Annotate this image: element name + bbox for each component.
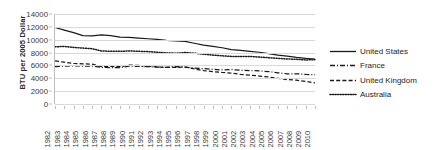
- x-axis-tick-mark: [83, 106, 84, 109]
- x-axis-tick-label: 1990: [119, 131, 127, 148]
- x-axis-tick-label: 2008: [286, 131, 294, 148]
- x-axis-tick-mark: [259, 106, 260, 109]
- gridline: [55, 14, 315, 15]
- legend-label: United Kingdom: [360, 76, 417, 85]
- x-axis-tick-mark: [129, 106, 130, 109]
- legend-swatch-solid-icon: [330, 47, 356, 56]
- gridline: [55, 78, 315, 79]
- y-axis-tick-mark: [49, 14, 52, 15]
- x-axis-tick-label: 2004: [249, 131, 257, 148]
- x-axis-tick-mark: [250, 106, 251, 109]
- x-axis-tick-label: 1983: [54, 131, 62, 148]
- x-axis-tick-label: 1999: [203, 131, 211, 148]
- legend-item-united-kingdom[interactable]: United Kingdom: [330, 73, 446, 88]
- x-axis-tick-mark: [194, 106, 195, 109]
- x-axis-tick-label: 2002: [231, 131, 239, 148]
- x-axis-tick-mark: [176, 106, 177, 109]
- gridline: [55, 27, 315, 28]
- x-axis-tick-label: 1995: [166, 131, 174, 148]
- gridline: [55, 53, 315, 54]
- legend-swatch-dashed-icon: [330, 76, 356, 85]
- x-axis-tick-labels: 1982198319841985198619871988198919901991…: [55, 106, 315, 148]
- x-axis-tick-mark: [185, 106, 186, 109]
- x-axis-tick-mark: [55, 106, 56, 109]
- x-axis-tick-mark: [111, 106, 112, 109]
- x-axis-tick-label: 1986: [82, 131, 90, 148]
- x-axis-tick-label: 1982: [45, 131, 53, 148]
- plot-area: [55, 14, 315, 104]
- legend-label: Australia: [360, 90, 391, 99]
- y-axis-tick-label: 4000: [31, 74, 48, 83]
- x-axis-tick-label: 1987: [91, 131, 99, 148]
- x-axis-tick-label: 2003: [240, 131, 248, 148]
- x-axis-tick-label: 1998: [193, 131, 201, 148]
- y-axis-tick-mark: [49, 52, 52, 53]
- x-axis-tick-label: 2007: [277, 131, 285, 148]
- x-axis-tick-label: 2006: [268, 131, 276, 148]
- x-axis-tick-mark: [269, 106, 270, 109]
- x-axis-tick-label: 1997: [184, 131, 192, 148]
- y-axis-tick-mark: [49, 26, 52, 27]
- legend-item-united-states[interactable]: United States: [330, 44, 446, 59]
- legend-item-australia[interactable]: Australia: [330, 88, 446, 103]
- y-axis-line: [54, 14, 55, 104]
- x-axis-tick-mark: [241, 106, 242, 109]
- x-axis-tick-mark: [120, 106, 121, 109]
- x-axis-tick-mark: [213, 106, 214, 109]
- x-axis-tick-mark: [306, 106, 307, 109]
- x-axis-tick-label: 2005: [258, 131, 266, 148]
- x-axis-tick-label: 1994: [156, 131, 164, 148]
- legend: United StatesFranceUnited KingdomAustral…: [330, 44, 446, 102]
- x-axis-tick-mark: [92, 106, 93, 109]
- x-axis-tick-mark: [139, 106, 140, 109]
- y-axis-tick-label: 10000: [26, 35, 48, 44]
- x-axis-tick-label: 1988: [101, 131, 109, 148]
- x-axis-tick-mark: [287, 106, 288, 109]
- legend-item-france[interactable]: France: [330, 59, 446, 74]
- legend-label: France: [360, 61, 385, 70]
- y-axis-tick-label: 14000: [26, 10, 48, 19]
- x-axis-tick-mark: [204, 106, 205, 109]
- x-axis-tick-mark: [148, 106, 149, 109]
- y-axis-tick-labels: 14000120001000080006000400020000: [0, 14, 52, 104]
- y-axis-tick-mark: [49, 65, 52, 66]
- x-axis-tick-label: 2010: [305, 131, 313, 148]
- y-axis-tick-label: 2000: [31, 87, 48, 96]
- x-axis-tick-mark: [74, 106, 75, 109]
- x-axis-tick-mark: [157, 106, 158, 109]
- y-axis-tick-mark: [49, 39, 52, 40]
- x-axis-tick-mark: [315, 106, 316, 109]
- x-axis-tick-label: 2000: [212, 131, 220, 148]
- x-axis-tick-mark: [166, 106, 167, 109]
- energy-intensity-line-chart: BTU per 2005 Dollar 14000120001000080006…: [0, 0, 446, 150]
- x-axis-tick-label: 1989: [110, 131, 118, 148]
- x-axis-tick-label: 1991: [128, 131, 136, 148]
- x-axis-tick-mark: [296, 106, 297, 109]
- x-axis-tick-label: 1984: [63, 131, 71, 148]
- y-axis-tick-label: 6000: [31, 61, 48, 70]
- gridline: [55, 40, 315, 41]
- y-axis-tick-label: 12000: [26, 22, 48, 31]
- gridlines: [55, 14, 315, 104]
- x-axis-tick-mark: [101, 106, 102, 109]
- x-axis-tick-label: 1985: [73, 131, 81, 148]
- x-axis-tick-mark: [222, 106, 223, 109]
- y-axis-tick-mark: [49, 104, 52, 105]
- gridline: [55, 91, 315, 92]
- y-axis-tick-mark: [49, 78, 52, 79]
- legend-label: United States: [360, 47, 408, 56]
- x-axis-tick-mark: [278, 106, 279, 109]
- x-axis-tick-label: 1996: [175, 131, 183, 148]
- x-axis-tick-label: 2009: [296, 131, 304, 148]
- gridline: [55, 104, 315, 105]
- y-axis-tick-mark: [49, 91, 52, 92]
- x-axis-tick-mark: [231, 106, 232, 109]
- legend-swatch-dashdot-icon: [330, 61, 356, 70]
- y-axis-tick-label: 0: [44, 100, 48, 109]
- gridline: [55, 65, 315, 66]
- x-axis-tick-label: 1993: [147, 131, 155, 148]
- x-axis-tick-label: 2001: [221, 131, 229, 148]
- y-axis-tick-label: 8000: [31, 48, 48, 57]
- legend-swatch-dotted-icon: [330, 90, 356, 99]
- x-axis-tick-label: 1992: [138, 131, 146, 148]
